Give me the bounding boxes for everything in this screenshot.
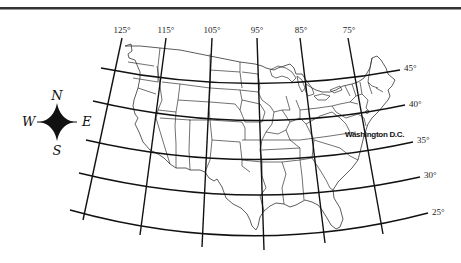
parallel-35: [86, 140, 413, 160]
compass-south: S: [53, 143, 62, 158]
meridian-85: [300, 38, 325, 243]
washington-dc-label: Washington D.C.: [345, 130, 404, 139]
compass-star-icon: [40, 103, 74, 141]
meridian-lines: [83, 38, 383, 250]
label-125: 125°: [113, 25, 131, 35]
compass-east: E: [81, 114, 92, 129]
meridian-125: [83, 38, 122, 220]
label-25: 25°: [432, 207, 445, 217]
parallel-30: [79, 173, 420, 195]
label-115: 115°: [158, 25, 175, 35]
label-75: 75°: [343, 25, 356, 35]
label-45: 45°: [404, 63, 417, 73]
meridian-105: [202, 38, 212, 247]
label-40: 40°: [409, 99, 422, 109]
longitude-labels: 125° 115° 105° 95° 85° 75°: [113, 25, 355, 35]
parallel-25: [70, 210, 428, 236]
label-85: 85°: [295, 25, 308, 35]
label-95: 95°: [251, 25, 264, 35]
label-105: 105°: [203, 25, 221, 35]
latitude-labels: 45° 40° 35° 30° 25°: [404, 63, 445, 217]
map-canvas: 125° 115° 105° 95° 85° 75° 45° 40° 35° 3…: [0, 0, 461, 263]
meridian-95: [257, 38, 264, 250]
parallel-lines: [70, 68, 428, 236]
compass-north: N: [50, 88, 63, 103]
compass-west: W: [22, 114, 37, 129]
meridian-115: [140, 38, 166, 235]
parallel-40: [93, 101, 405, 121]
label-30: 30°: [424, 170, 437, 180]
label-35: 35°: [417, 135, 430, 145]
compass-rose: N S E W: [22, 88, 92, 158]
top-border-rule: [0, 7, 461, 10]
us-map: 125° 115° 105° 95° 85° 75° 45° 40° 35° 3…: [0, 0, 461, 263]
